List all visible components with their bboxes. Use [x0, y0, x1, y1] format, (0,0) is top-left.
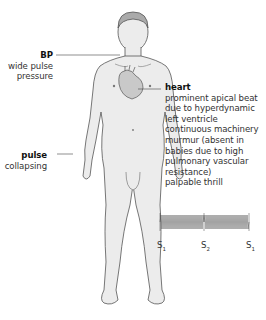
heart-title: heart — [165, 82, 266, 93]
heart-sound-marker-s2: S2 — [201, 240, 210, 252]
bp-annotation: BP wide pulse pressure — [0, 50, 53, 82]
heart-annotation: heart prominent apical beat due to hyper… — [165, 82, 266, 188]
heart-description-line: babies due to high — [165, 146, 266, 157]
heart-description-line: prominent apical beat — [165, 93, 266, 104]
pulse-description-line: collapsing — [0, 161, 47, 172]
bp-description-line: pressure — [0, 71, 53, 82]
heart-description-line: continuous machinery — [165, 124, 266, 135]
heart-description-line: resistance) — [165, 167, 266, 178]
heart-description-line: left ventricle — [165, 114, 266, 125]
heart-description-line: palpable thrill — [165, 177, 266, 188]
bp-title: BP — [0, 50, 53, 61]
heart-sound-marker-s1: S1 — [157, 240, 166, 252]
heart-sound-marker-s1-repeat: S1 — [246, 240, 255, 252]
phonocardiogram-waveform — [160, 213, 249, 231]
pulse-title: pulse — [0, 150, 47, 161]
bp-description-line: wide pulse — [0, 61, 53, 72]
pulse-annotation: pulse collapsing — [0, 150, 47, 171]
heart-description-line: pulmonary vascular — [165, 156, 266, 167]
heart-description-line: due to hyperdynamic — [165, 103, 266, 114]
heart-description-line: murmur (absent in — [165, 135, 266, 146]
